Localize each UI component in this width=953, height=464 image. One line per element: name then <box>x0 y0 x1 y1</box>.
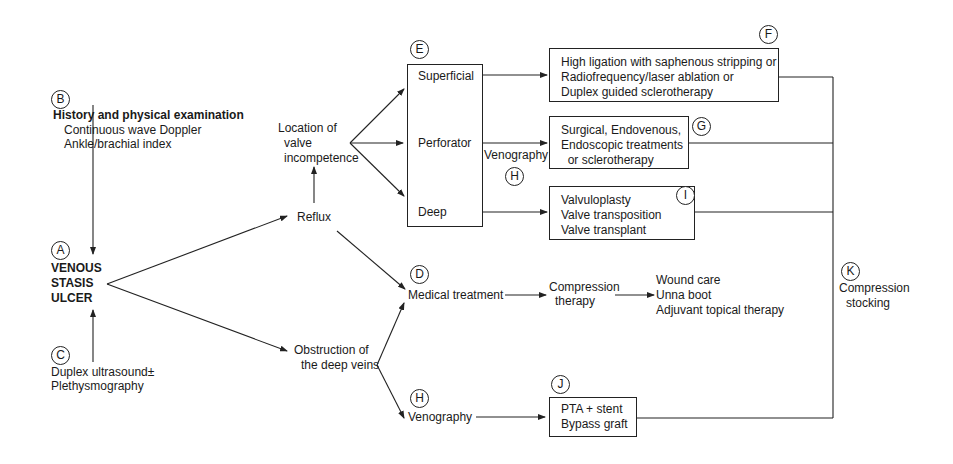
perforator-tx-line-3: or sclerotherapy <box>561 153 688 168</box>
obstruction-line-2: the deep veins <box>301 358 379 373</box>
duplex-line-1: Duplex ultrasound± <box>51 365 154 380</box>
superficial-treatment-box: High ligation with saphenous stripping o… <box>549 48 779 102</box>
medical-treatment-label: Medical treatment <box>408 288 503 303</box>
history-line-2: Ankle/brachial index <box>64 137 171 152</box>
location-line-2: valve <box>284 136 312 151</box>
marker-a: A <box>51 241 70 260</box>
marker-c: C <box>51 346 70 365</box>
perforator-tx-line-2: Endoscopic treatments <box>561 138 688 153</box>
superficial-tx-line-3: Duplex guided sclerotherapy <box>561 85 778 100</box>
marker-j: J <box>551 375 570 394</box>
wound-line-1: Wound care <box>656 273 720 288</box>
superficial-label: Superficial <box>418 69 474 84</box>
perforator-label: Perforator <box>418 136 471 151</box>
ulcer-line-2: STASIS <box>51 276 93 291</box>
superficial-tx-line-1: High ligation with saphenous stripping o… <box>561 55 778 70</box>
stocking-line-2: stocking <box>846 296 890 311</box>
deep-treatment-box: Valvuloplasty Valve transposition Valve … <box>549 186 695 240</box>
history-title: History and physical examination <box>53 108 244 123</box>
marker-f: F <box>759 25 778 44</box>
marker-i: I <box>676 186 695 205</box>
compression-therapy-line-1: Compression <box>549 280 620 295</box>
perforator-tx-line-1: Surgical, Endovenous, <box>561 123 688 138</box>
marker-g: G <box>692 117 711 136</box>
pta-line-1: PTA + stent <box>561 402 636 417</box>
wound-line-3: Adjuvant topical therapy <box>656 303 784 318</box>
marker-e: E <box>410 40 429 59</box>
superficial-tx-line-2: Radiofrequency/laser ablation or <box>561 70 778 85</box>
wound-line-2: Unna boot <box>656 288 711 303</box>
marker-h-lower: H <box>410 389 429 408</box>
history-line-1: Continuous wave Doppler <box>64 123 201 138</box>
ulcer-line-3: ULCER <box>51 291 92 306</box>
marker-k: K <box>841 262 860 281</box>
location-line-1: Location of <box>278 121 337 136</box>
pta-box: PTA + stent Bypass graft <box>549 397 637 437</box>
location-line-3: incompetence <box>284 151 359 166</box>
marker-b: B <box>51 90 70 109</box>
marker-d: D <box>410 265 429 284</box>
perforator-treatment-box: Surgical, Endovenous, Endoscopic treatme… <box>549 116 689 169</box>
stocking-line-1: Compression <box>839 281 910 296</box>
pta-line-2: Bypass graft <box>561 417 636 432</box>
reflux-label: Reflux <box>297 210 331 225</box>
deep-tx-line-2: Valve transposition <box>561 208 694 223</box>
ulcer-line-1: VENOUS <box>51 261 102 276</box>
venography-lower-label: Venography <box>408 410 472 425</box>
deep-tx-line-1: Valvuloplasty <box>561 193 694 208</box>
marker-h-upper: H <box>505 167 524 186</box>
deep-tx-line-3: Valve transplant <box>561 223 694 238</box>
deep-label: Deep <box>418 205 447 220</box>
compression-therapy-line-2: therapy <box>555 294 595 309</box>
duplex-line-2: Plethysmography <box>51 379 144 394</box>
venography-upper-label: Venography <box>484 148 548 163</box>
obstruction-line-1: Obstruction of <box>294 343 369 358</box>
